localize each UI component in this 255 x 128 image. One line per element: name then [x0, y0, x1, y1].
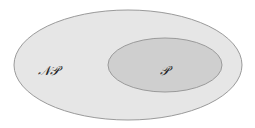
- venn-diagram: 𝒩𝒫 𝒫: [0, 0, 255, 128]
